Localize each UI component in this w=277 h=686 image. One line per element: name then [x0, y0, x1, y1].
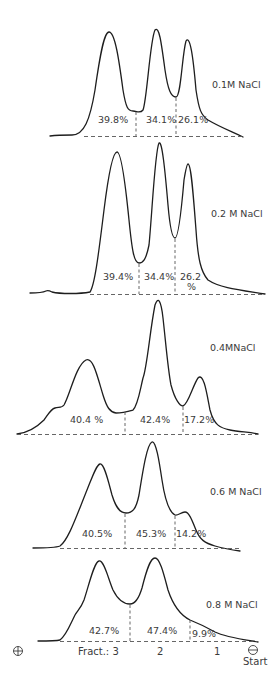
pct-f1-0.4m: 17.2% — [184, 414, 214, 425]
anode-plus-icon — [14, 647, 23, 656]
pct-f1-0.6m: 14.2% — [176, 528, 206, 539]
pct-f3-0.2m: 39.4% — [103, 271, 133, 282]
pct-f2-0.2m: 34.4% — [144, 271, 174, 282]
pct-f3-0.1m: 39.8% — [98, 114, 128, 125]
panel-0.8m-nacl: 42.7% 47.4% 9.9% 0.8 M NaCl — [38, 558, 258, 642]
axis-label-fract-3: Fract.: 3 — [78, 646, 119, 657]
pct-f2-0.4m: 42.4% — [140, 414, 170, 425]
axis-label-fract-2: 2 — [157, 646, 163, 657]
axis-label-fract-1: 1 — [214, 646, 220, 657]
densitogram-figure: 39.8% 34.1% 26.1% 0.1M NaCl 39.4% 34.4% … — [0, 0, 277, 686]
x-axis: Fract.: 3 2 1 Start — [14, 646, 268, 668]
pct-f1-0.1m: 26.1% — [178, 114, 208, 125]
pct-f3-0.8m: 42.7% — [89, 625, 119, 636]
pct-f1-0.8m: 9.9% — [192, 628, 216, 639]
pct-f2-0.8m: 47.4% — [147, 625, 177, 636]
pct-f3-0.4m: 40.4 % — [70, 414, 103, 425]
condition-label-0.2m: 0.2 M NaCl — [211, 208, 263, 219]
panel-0.4m-nacl: 40.4 % 42.4% 17.2% 0.4MNaCl — [17, 300, 258, 434]
condition-label-0.1m: 0.1M NaCl — [212, 79, 261, 90]
condition-label-0.4m: 0.4MNaCl — [210, 342, 256, 353]
condition-label-0.8m: 0.8 M NaCl — [206, 599, 258, 610]
condition-label-0.6m: 0.6 M NaCl — [210, 486, 262, 497]
cathode-minus-icon — [249, 646, 258, 655]
axis-label-start: Start — [243, 656, 268, 667]
panel-0.1m-nacl: 39.8% 34.1% 26.1% 0.1M NaCl — [50, 29, 261, 137]
trace-0.4m — [17, 300, 258, 434]
pct-f2-0.1m: 34.1% — [146, 114, 176, 125]
panel-0.2m-nacl: 39.4% 34.4% 26.2 % 0.2 M NaCl — [30, 143, 265, 295]
pct-f1-unit-0.2m: % — [187, 281, 196, 292]
pct-f2-0.6m: 45.3% — [136, 528, 166, 539]
panel-0.6m-nacl: 40.5% 45.3% 14.2% 0.6 M NaCl — [33, 442, 262, 551]
pct-f3-0.6m: 40.5% — [82, 528, 112, 539]
